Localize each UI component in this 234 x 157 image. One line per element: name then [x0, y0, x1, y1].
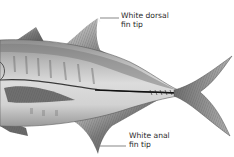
anal-label-line2: fin tip [129, 141, 170, 150]
caudal-fin [174, 56, 232, 136]
dorsal-fin-label: White dorsal fin tip [121, 12, 169, 29]
fish-body [0, 40, 178, 127]
fish-illustration: White dorsal fin tip White anal fin tip [0, 0, 234, 157]
anal-fin-label: White anal fin tip [129, 132, 170, 149]
dorsal-label-line2: fin tip [121, 21, 169, 30]
fish-drawing [0, 0, 234, 157]
